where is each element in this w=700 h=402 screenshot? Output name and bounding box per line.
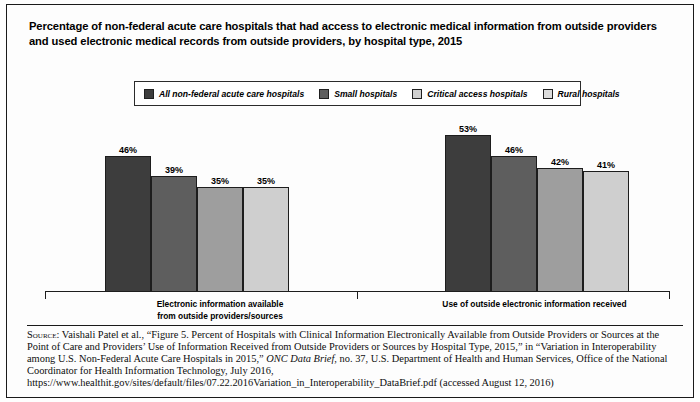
legend-label: All non-federal acute care hospitals — [159, 89, 304, 99]
bar-value-label: 46% — [492, 145, 536, 155]
bar-slot: 35% — [197, 115, 243, 292]
category-label-line: Electronic information available — [105, 299, 335, 311]
bar-slot: 41% — [583, 115, 629, 292]
bar-small-hospitals-g1[interactable]: 39% — [151, 176, 197, 292]
bar-value-label: 35% — [198, 176, 242, 186]
legend-label: Rural hospitals — [558, 89, 620, 99]
figure-container: Percentage of non-federal acute care hos… — [0, 0, 700, 402]
bar-value-label: 46% — [106, 145, 150, 155]
bar-value-label: 41% — [584, 160, 628, 170]
category-label-line: Use of outside electronic information re… — [402, 299, 667, 311]
source-divider — [27, 325, 683, 326]
bar-slot: 53% — [445, 115, 491, 292]
legend-item-small-hospitals[interactable]: Small hospitals — [319, 89, 397, 99]
legend-item-all-hospitals[interactable]: All non-federal acute care hospitals — [144, 89, 304, 99]
legend-label: Critical access hospitals — [427, 89, 527, 99]
bar-critical-access-hospitals-g2[interactable]: 42% — [537, 168, 583, 292]
bar-group-electronic-information-available: 46% 39% 35% 35% — [105, 115, 290, 292]
bar-slot: 39% — [151, 115, 197, 292]
figure-title: Percentage of non-federal acute care hos… — [29, 19, 679, 49]
bar-value-label: 42% — [538, 157, 582, 167]
bar-rural-hospitals-g2[interactable]: 41% — [583, 171, 629, 292]
bar-all-hospitals-g2[interactable]: 53% — [445, 135, 491, 292]
legend-label: Small hospitals — [334, 89, 397, 99]
legend-item-critical-access-hospitals[interactable]: Critical access hospitals — [412, 89, 527, 99]
bar-slot: 42% — [537, 115, 583, 292]
legend-swatch-icon — [543, 89, 553, 99]
legend-item-rural-hospitals[interactable]: Rural hospitals — [543, 89, 620, 99]
bar-group-use-of-outside-electronic-information: 53% 46% 42% 41% — [445, 115, 630, 292]
legend-swatch-icon — [144, 89, 154, 99]
axis-tick-right — [669, 292, 670, 299]
bar-value-label: 35% — [244, 176, 288, 186]
bar-all-hospitals-g1[interactable]: 46% — [105, 156, 151, 292]
axis-tick-middle — [357, 292, 358, 299]
category-label-group-2: Use of outside electronic information re… — [402, 299, 667, 311]
chart-plot-area: 46% 39% 35% 35% — [45, 115, 670, 292]
bar-slot: 35% — [243, 115, 289, 292]
category-label-group-1: Electronic information available from ou… — [105, 299, 335, 322]
source-publication-title: ONC Data Brief — [266, 353, 334, 364]
legend-swatch-icon — [412, 89, 422, 99]
source-note: Source: Vaishali Patel et al., “Figure 5… — [27, 329, 682, 389]
legend-swatch-icon — [319, 89, 329, 99]
bar-rural-hospitals-g1[interactable]: 35% — [243, 187, 289, 292]
figure-frame: Percentage of non-federal acute care hos… — [6, 4, 694, 398]
bar-slot: 46% — [105, 115, 151, 292]
bar-small-hospitals-g2[interactable]: 46% — [491, 156, 537, 292]
bar-value-label: 53% — [446, 124, 490, 134]
source-label: Source: — [27, 329, 59, 340]
chart-legend: All non-federal acute care hospitals Sma… — [134, 81, 581, 106]
category-label-line: from outside providers/sources — [105, 311, 335, 323]
bar-critical-access-hospitals-g1[interactable]: 35% — [197, 187, 243, 292]
bar-value-label: 39% — [152, 165, 196, 175]
axis-tick-left — [45, 292, 46, 299]
bar-slot: 46% — [491, 115, 537, 292]
